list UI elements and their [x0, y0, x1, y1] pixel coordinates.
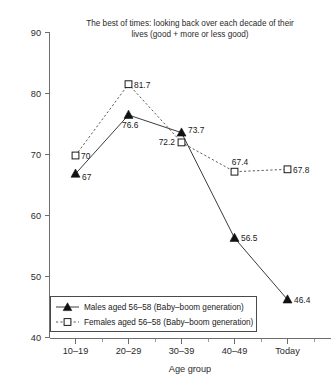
data-label-males-2: 73.7: [188, 125, 205, 135]
y-tick-label-60: 60: [31, 211, 41, 221]
data-label-females-1: 81.7: [134, 80, 151, 90]
data-label-males-3: 56.5: [241, 233, 258, 243]
y-tick-label-90: 90: [31, 28, 41, 38]
data-point-females-2: [178, 139, 185, 146]
legend-label-females: Females aged 56–58 (Baby–boom generation…: [84, 318, 254, 327]
data-label-females-2: 72.2: [159, 137, 176, 147]
chart-title-line-1: The best of times: looking back over eac…: [86, 19, 294, 28]
x-tick-label-1: 20–29: [116, 346, 142, 356]
data-point-females-1: [125, 81, 132, 88]
y-tick-label-40: 40: [31, 333, 41, 343]
x-axis-title: Age group: [169, 364, 211, 374]
data-label-males-1: 76.6: [122, 120, 139, 130]
y-tick-label-50: 50: [31, 272, 41, 282]
data-label-females-4: 67.8: [293, 165, 310, 175]
x-axis: 10–19 20–29 30–39 40–49 Today: [50, 339, 332, 357]
open-square-icon: [64, 319, 71, 326]
chart-legend: Males aged 56–58 (Baby–boom generation) …: [51, 297, 257, 332]
x-tick-label-4: Today: [275, 346, 300, 356]
data-point-males-3: [230, 233, 239, 241]
data-point-females-0: [72, 152, 79, 159]
x-tick-label-3: 40–49: [222, 346, 248, 356]
data-point-males-1: [124, 110, 133, 118]
data-label-females-0: 70: [81, 151, 91, 161]
series-males: 67 76.6 73.7 56.5 46.4: [71, 110, 311, 305]
y-axis: 90 80 70 60 50 40: [31, 28, 50, 343]
y-tick-label-70: 70: [31, 150, 41, 160]
data-point-females-3: [231, 168, 238, 175]
chart-container: The best of times: looking back over eac…: [0, 0, 336, 388]
data-point-females-4: [284, 166, 291, 173]
legend-label-males: Males aged 56–58 (Baby–boom generation): [84, 303, 244, 312]
y-tick-label-80: 80: [31, 89, 41, 99]
data-label-males-0: 67: [82, 172, 92, 182]
legend-item-females[interactable]: Females aged 56–58 (Baby–boom generation…: [56, 318, 254, 327]
chart-title-line-2: lives (good + more or less good): [131, 30, 248, 39]
data-label-females-3: 67.4: [232, 157, 249, 167]
legend-item-males[interactable]: Males aged 56–58 (Baby–boom generation): [56, 303, 244, 312]
x-tick-label-2: 30–39: [169, 346, 195, 356]
line-chart: The best of times: looking back over eac…: [0, 0, 336, 388]
x-tick-label-0: 10–19: [63, 346, 89, 356]
data-label-males-4: 46.4: [294, 295, 311, 305]
